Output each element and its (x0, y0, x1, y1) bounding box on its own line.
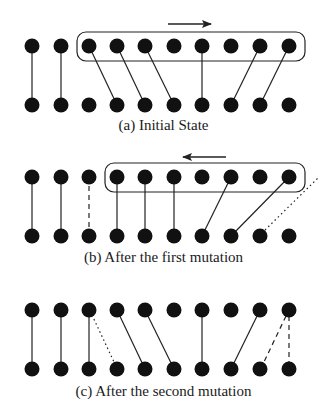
top-row-nodes (25, 39, 297, 54)
panel-b (25, 157, 319, 244)
edges (32, 177, 318, 236)
panel-a (25, 24, 306, 113)
mutation-diagram (0, 0, 327, 415)
edges (32, 46, 289, 105)
bottom-row-nodes (25, 362, 297, 377)
edges (32, 310, 289, 369)
caption-panel-c: (c) After the second mutation (0, 382, 327, 400)
panel-c (25, 303, 297, 377)
caption-panel-a: (a) Initial State (0, 116, 327, 134)
top-row-nodes (25, 170, 297, 185)
top-row-nodes (25, 303, 297, 318)
bottom-row-nodes (25, 98, 297, 113)
caption-panel-b: (b) After the first mutation (0, 248, 327, 266)
bottom-row-nodes (25, 229, 297, 244)
